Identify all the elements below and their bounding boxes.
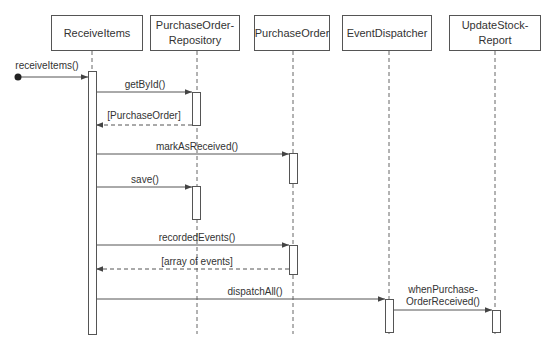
participant-label: PurchaseOrder- Repository (156, 18, 234, 48)
message-label: markAsReceived() (156, 141, 238, 153)
activation-bar-receive-items (89, 72, 97, 335)
participant-purchase-order: PurchaseOrder (254, 15, 330, 51)
message-label: save() (131, 174, 159, 186)
participant-event-dispatcher: EventDispatcher (342, 15, 432, 51)
activation-bar-purchase-order-repository (193, 187, 201, 220)
activation-bar-event-dispatcher (386, 300, 394, 333)
message-label: receiveItems() (15, 60, 78, 72)
message-label: whenPurchase- OrderReceived() (406, 284, 480, 308)
activation-bar-purchase-order-repository (193, 93, 201, 126)
found-message-dot-icon (15, 74, 22, 81)
message-label: dispatchAll() (227, 286, 282, 298)
message-label: [array of events] (161, 256, 233, 268)
activation-bar-purchase-order (290, 246, 298, 275)
participant-purchase-order-repository: PurchaseOrder- Repository (150, 15, 240, 51)
activation-bar-purchase-order (290, 154, 298, 184)
messages (15, 74, 493, 311)
activation-bar-update-stock-report (493, 311, 501, 333)
message-label: getById() (125, 79, 166, 91)
participant-label: ReceiveItems (64, 26, 131, 41)
participant-label: UpdateStock- Report (462, 18, 529, 48)
participant-label: EventDispatcher (347, 26, 428, 41)
message-label: recordedEvents() (159, 232, 236, 244)
participant-update-stock-report: UpdateStock- Report (449, 15, 541, 51)
message-label: [PurchaseOrder] (107, 110, 180, 122)
participant-label: PurchaseOrder (255, 26, 330, 41)
participant-receive-items: ReceiveItems (51, 15, 143, 51)
